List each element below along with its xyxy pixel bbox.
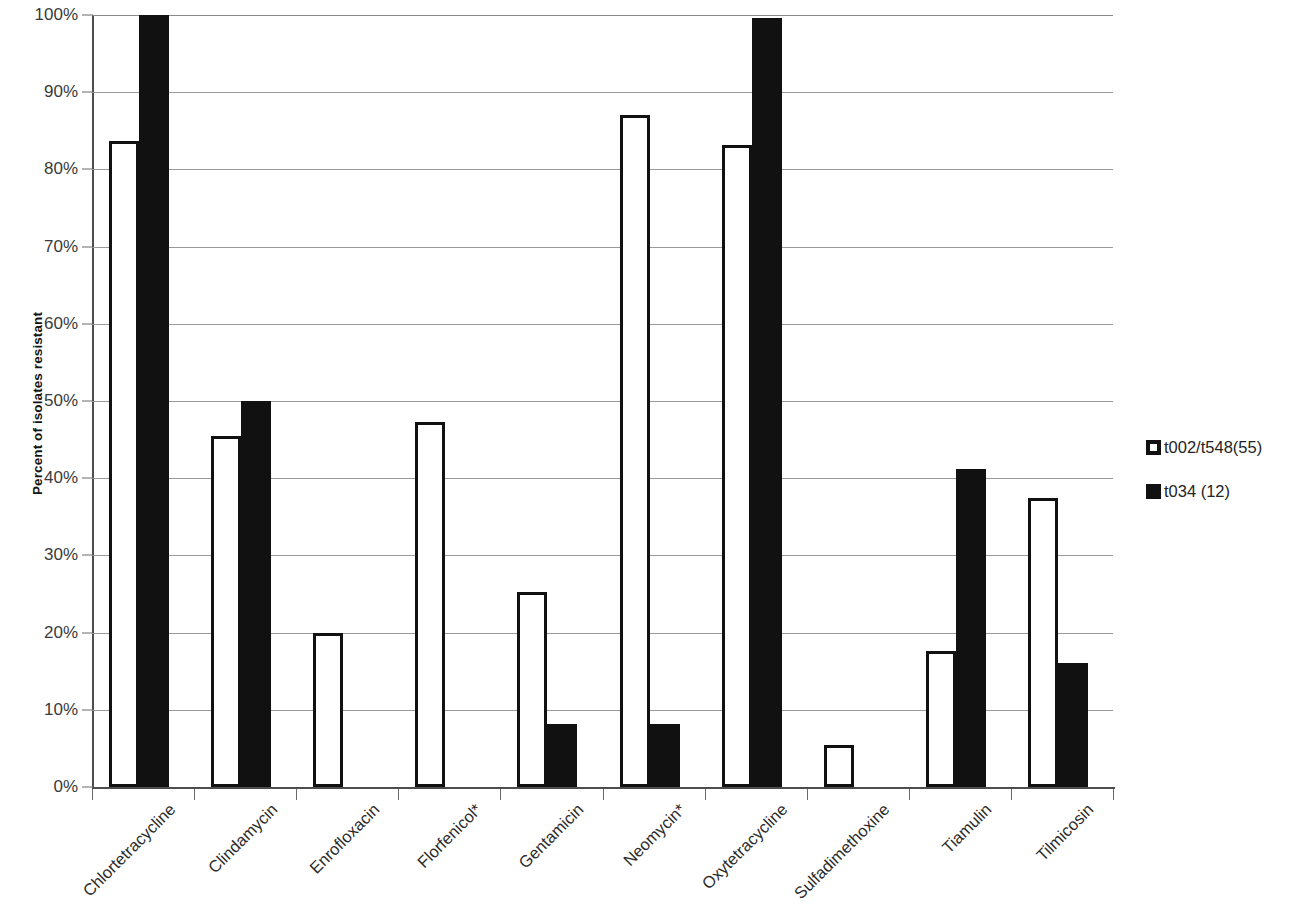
y-axis-tick-mark	[82, 709, 93, 710]
bar	[722, 145, 752, 787]
bar	[139, 15, 169, 787]
x-axis-tick-label: Tiamulin	[939, 800, 996, 857]
y-axis-tick-label: 30%	[8, 545, 78, 565]
bar	[415, 422, 445, 787]
y-axis-tick-mark	[82, 401, 93, 402]
bar-group	[620, 15, 680, 787]
legend-item[interactable]: t034 (12)	[1146, 476, 1293, 506]
y-axis-tick-mark	[82, 169, 93, 170]
y-axis-tick-mark	[82, 555, 93, 556]
bar	[109, 141, 139, 787]
bar	[547, 724, 577, 787]
x-axis-tick-mark	[398, 789, 399, 800]
bar	[1028, 498, 1058, 788]
bar-group	[722, 15, 782, 787]
bar-group	[415, 15, 475, 787]
x-axis-tick-mark	[705, 789, 706, 800]
chart-legend: t002/t548(55)t034 (12)	[1146, 432, 1293, 520]
y-axis-tick-mark	[82, 15, 93, 16]
plot-area	[92, 15, 1113, 787]
bar	[1058, 663, 1088, 787]
bar-group	[517, 15, 577, 787]
x-axis-line	[92, 787, 1115, 789]
y-axis-tick-mark	[82, 478, 93, 479]
chart-figure: Percent of isolates resistant 0%10%20%30…	[0, 0, 1293, 915]
bar-group	[1028, 15, 1088, 787]
x-axis-tick-mark	[603, 789, 604, 800]
y-axis-tick-label: 80%	[8, 159, 78, 179]
x-axis-tick-label: Neomycin*	[620, 800, 690, 870]
bar	[956, 469, 986, 787]
x-axis-tick-label: Florfenicol*	[413, 800, 485, 872]
x-axis-tick-mark	[909, 789, 910, 800]
x-axis-tick-mark	[500, 789, 501, 800]
bar-group	[926, 15, 986, 787]
y-axis-tick-mark	[82, 246, 93, 247]
legend-label: t002/t548(55)	[1164, 438, 1262, 457]
y-axis-tick-mark	[82, 92, 93, 93]
x-axis-tick-label: Tilmicosin	[1033, 800, 1098, 865]
bar	[211, 436, 241, 787]
x-axis-tick-mark	[1113, 789, 1114, 800]
x-axis-tick-label: Enrofloxacin	[305, 800, 383, 878]
y-axis-tick-labels: 0%10%20%30%40%50%60%70%80%90%100%	[0, 0, 78, 915]
x-axis-tick-mark	[1011, 789, 1012, 800]
legend-label: t034 (12)	[1164, 482, 1230, 501]
bar	[313, 633, 343, 787]
y-axis-tick-label: 20%	[8, 623, 78, 643]
y-axis-tick-label: 0%	[8, 777, 78, 797]
y-axis-tick-label: 10%	[8, 700, 78, 720]
legend-swatch-icon	[1146, 440, 1161, 455]
x-axis-tick-label: Sulfadimethoxine	[791, 800, 894, 903]
bar	[650, 724, 680, 787]
y-axis-tick-label: 50%	[8, 391, 78, 411]
bar-group	[211, 15, 271, 787]
x-axis-tick-label: Oxytetracycline	[698, 800, 791, 893]
bar-group	[824, 15, 884, 787]
y-axis-tick-mark	[82, 323, 93, 324]
y-axis-tick-label: 70%	[8, 237, 78, 257]
y-axis-tick-label: 90%	[8, 82, 78, 102]
bar	[926, 651, 956, 787]
bar	[517, 592, 547, 787]
legend-swatch-icon	[1146, 484, 1161, 499]
bar	[620, 115, 650, 787]
x-axis-tick-label: Chlortetracycline	[79, 800, 179, 900]
x-axis-tick-mark	[807, 789, 808, 800]
x-axis-tick-mark	[296, 789, 297, 800]
bar	[824, 745, 854, 787]
x-axis-tick-label: Clindamycin	[204, 800, 281, 877]
bar-group	[313, 15, 373, 787]
bar	[241, 401, 271, 787]
bar-group	[109, 15, 169, 787]
x-axis-tick-label: Gentamicin	[515, 800, 587, 872]
legend-item[interactable]: t002/t548(55)	[1146, 432, 1293, 462]
y-axis-tick-label: 60%	[8, 314, 78, 334]
x-axis-tick-mark	[194, 789, 195, 800]
bar	[752, 18, 782, 787]
x-axis-tick-mark	[92, 789, 93, 800]
y-axis-tick-mark	[82, 632, 93, 633]
y-axis-tick-mark	[82, 787, 93, 788]
y-axis-tick-label: 100%	[8, 5, 78, 25]
y-axis-tick-label: 40%	[8, 468, 78, 488]
